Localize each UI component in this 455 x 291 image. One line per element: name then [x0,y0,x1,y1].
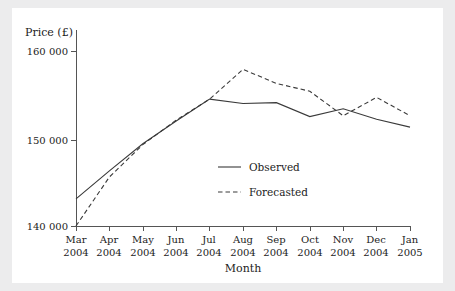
x-tick-label-year-3: 2004 [163,247,188,258]
legend-label-forecasted: Forecasted [249,186,308,198]
x-tick-label-month-2: May [132,234,154,245]
y-axis-title: Price (£) [25,26,73,39]
x-tick-label-month-8: Nov [333,234,354,245]
line-chart: Price (£) 160 000 150 000 140 000 Mar Ap… [0,0,455,291]
x-tick-label-month-0: Mar [66,234,87,245]
x-tick-label-month-3: Jun [167,234,185,245]
x-axis-title: Month [225,262,261,275]
chart-legend: Observed Forecasted [218,161,308,198]
x-tick-label-month-1: Apr [99,234,119,245]
series-line-observed [76,99,410,199]
x-tick-label-year-6: 2004 [263,247,288,258]
x-tick-label-year-9: 2004 [363,247,388,258]
legend-label-observed: Observed [249,161,300,173]
x-tick-label-month-10: Jan [401,234,419,245]
x-tick-label-year-5: 2004 [230,247,255,258]
series-line-forecasted [76,69,410,226]
x-tick-label-month-5: Aug [232,234,254,245]
x-tick-label-year-4: 2004 [196,247,221,258]
x-tick-label-year-1: 2004 [96,247,121,258]
x-tick-label-year-10: 2005 [397,247,422,258]
x-tick-label-year-8: 2004 [330,247,355,258]
x-tick-label-month-7: Oct [301,234,319,245]
y-tick-label-160000: 160 000 [27,46,68,57]
x-tick-label-year-7: 2004 [297,247,322,258]
x-tick-label-month-9: Dec [366,234,386,245]
x-tick-label-month-4: Jul [201,234,216,245]
y-tick-label-140000: 140 000 [27,221,68,232]
y-tick-label-150000: 150 000 [27,135,68,146]
x-tick-label-year-0: 2004 [63,247,88,258]
chart-figure: Price (£) 160 000 150 000 140 000 Mar Ap… [0,0,455,291]
x-tick-label-year-2: 2004 [130,247,155,258]
x-tick-label-month-6: Sep [266,234,285,245]
